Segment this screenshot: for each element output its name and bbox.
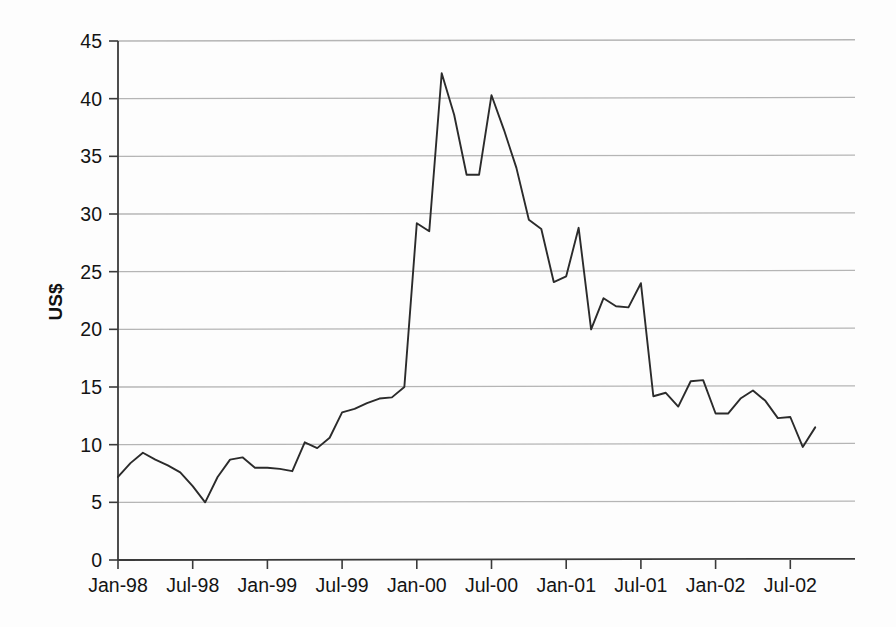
x-tick-label: Jul-98: [166, 574, 219, 596]
y-tick-label: 5: [91, 491, 102, 513]
gridline: [118, 213, 855, 214]
y-axis-ticks: [109, 41, 118, 560]
y-tick-label: 25: [80, 261, 102, 283]
y-axis-tick-labels: 051015202530354045: [80, 30, 102, 571]
y-tick-label: 0: [91, 549, 102, 571]
gridline: [118, 97, 855, 98]
y-tick-label: 30: [80, 203, 102, 225]
axis-lines: [118, 41, 855, 560]
gridline: [118, 386, 855, 387]
y-tick-label: 35: [80, 145, 102, 167]
line-chart: 051015202530354045 Jan-98Jul-98Jan-99Jul…: [0, 0, 896, 627]
x-axis-line: [118, 559, 855, 560]
x-tick-label: Jul-01: [614, 574, 667, 596]
gridline: [118, 501, 855, 502]
gridline: [118, 443, 855, 444]
x-axis-tick-labels: Jan-98Jul-98Jan-99Jul-99Jan-00Jul-00Jan-…: [88, 574, 817, 596]
x-axis-ticks: [118, 560, 790, 569]
gridline: [118, 155, 855, 156]
data-series: [118, 73, 815, 502]
y-tick-label: 20: [80, 318, 102, 340]
gridline: [118, 270, 855, 271]
gridlines: [118, 40, 855, 503]
y-tick-label: 15: [80, 376, 102, 398]
gridline: [118, 40, 855, 41]
x-tick-label: Jan-02: [686, 574, 746, 596]
series-line-0: [118, 73, 815, 502]
x-tick-label: Jan-98: [88, 574, 148, 596]
x-tick-label: Jul-02: [764, 574, 817, 596]
y-tick-label: 45: [80, 30, 102, 52]
gridline: [118, 328, 855, 329]
x-tick-label: Jan-00: [387, 574, 447, 596]
y-tick-label: 40: [80, 88, 102, 110]
x-tick-label: Jan-01: [536, 574, 596, 596]
y-tick-label: 10: [80, 434, 102, 456]
x-tick-label: Jul-00: [465, 574, 518, 596]
chart-container: US$ 051015202530354045 Jan-98Jul-98Jan-9…: [0, 0, 896, 627]
x-tick-label: Jul-99: [316, 574, 369, 596]
x-tick-label: Jan-99: [238, 574, 298, 596]
